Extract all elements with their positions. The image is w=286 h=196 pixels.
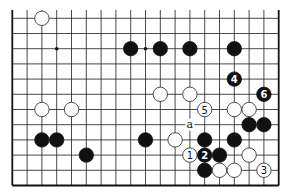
black-stone-disc [212, 148, 226, 162]
black-stone-disc [50, 133, 64, 147]
black-stone [227, 133, 241, 147]
white-stone-disc [64, 102, 78, 116]
black-stone-disc [242, 118, 256, 132]
black-stone [79, 148, 93, 162]
board-grid [12, 10, 278, 186]
white-stone-disc [153, 87, 167, 101]
black-stone-disc [153, 42, 167, 56]
black-stone-disc [183, 42, 197, 56]
move-number-label: 5 [202, 105, 208, 116]
black-stone-disc [198, 163, 212, 177]
black-stone-disc [257, 118, 271, 132]
black-stone [35, 133, 49, 147]
black-stone-disc [35, 133, 49, 147]
black-stone [153, 42, 167, 56]
white-stone [35, 102, 49, 116]
black-stone [257, 118, 271, 132]
white-stone [242, 102, 256, 116]
black-stone-disc [198, 133, 212, 147]
black-stone-disc [227, 42, 241, 56]
white-stone-3: 3 [257, 163, 271, 177]
star-point [144, 47, 148, 51]
black-stone [183, 42, 197, 56]
move-number-label: 2 [201, 150, 208, 161]
white-stone-disc [242, 148, 256, 162]
black-stone [242, 118, 256, 132]
white-stone [35, 11, 49, 25]
white-stone-disc [227, 102, 241, 116]
move-number-label: 4 [231, 74, 238, 85]
black-stone-2: 2 [198, 148, 212, 162]
white-stone-5: 5 [198, 102, 212, 116]
white-stone [153, 87, 167, 101]
white-stone [227, 163, 241, 177]
black-stone-6: 6 [257, 87, 271, 101]
white-stone [64, 102, 78, 116]
marks-layer: a [185, 118, 194, 131]
mark-letter: a [187, 118, 194, 131]
black-stone-disc [138, 133, 152, 147]
black-stone [198, 163, 212, 177]
black-stone-4: 4 [227, 72, 241, 86]
black-stone [124, 42, 138, 56]
go-board: 465123 a [0, 0, 286, 196]
move-number-label: 6 [260, 89, 267, 100]
black-stone [138, 133, 152, 147]
black-stone [198, 133, 212, 147]
black-stone-disc [79, 148, 93, 162]
white-stone-disc [212, 163, 226, 177]
point-mark-a: a [185, 118, 194, 131]
black-stone-disc [227, 133, 241, 147]
white-stone [168, 133, 182, 147]
white-stone [212, 163, 226, 177]
star-point [55, 47, 59, 51]
white-stone-disc [168, 133, 182, 147]
white-stone-disc [35, 102, 49, 116]
white-stone [183, 87, 197, 101]
black-stone [212, 148, 226, 162]
black-stone [50, 133, 64, 147]
white-stone [242, 148, 256, 162]
black-stone-disc [124, 42, 138, 56]
white-stone-disc [227, 163, 241, 177]
white-stone-1: 1 [183, 148, 197, 162]
move-number-label: 1 [187, 150, 193, 161]
white-stone-disc [242, 102, 256, 116]
white-stone [227, 102, 241, 116]
black-stone [227, 42, 241, 56]
move-number-label: 3 [261, 165, 267, 176]
white-stone-disc [183, 87, 197, 101]
white-stone-disc [35, 11, 49, 25]
